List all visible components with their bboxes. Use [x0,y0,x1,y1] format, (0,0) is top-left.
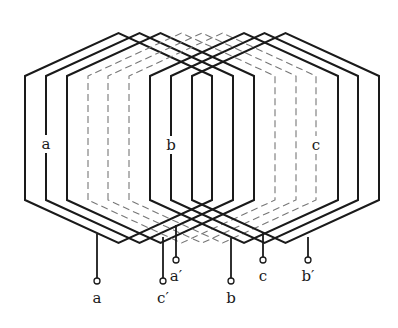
phase-label: a [42,135,51,153]
terminal-icon [160,278,166,284]
terminal-icon [173,257,179,263]
coil-phase-c [88,33,275,243]
coil-phase-b [192,33,379,243]
coil-phase-a [25,33,212,243]
terminal-icon [94,278,100,284]
label-group: ac′a′bcb′abc [40,135,322,307]
coil-phase-c [108,33,296,243]
terminal-icon [228,278,234,284]
coil-phase-c [129,33,316,243]
terminal-label: a [93,289,102,307]
terminal-icon [305,257,311,263]
terminal-icon [260,257,266,263]
terminal-label: c′ [157,289,169,307]
coil-phase-a [46,33,233,243]
winding-diagram: ac′a′bcb′abc [0,0,398,328]
coil-phase-b [150,33,338,243]
terminal-label: a′ [170,267,183,285]
coil-group [25,33,379,243]
terminal-label: b′ [301,267,315,285]
phase-label: c [312,136,320,154]
coil-phase-a [67,33,254,243]
coil-phase-b [171,33,358,243]
terminal-label: c [259,267,267,285]
terminal-label: b [226,289,236,307]
phase-label: b [166,136,176,154]
